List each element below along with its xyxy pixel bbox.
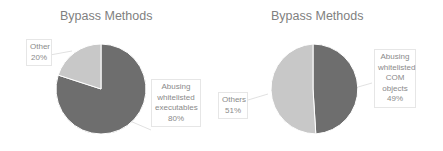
pie-chart-executables: Bypass Methods Other 20% Abusing whiteli… — [0, 0, 220, 151]
leader-line — [248, 94, 268, 100]
data-label-executables: Abusing whitelisted executables 80% — [151, 79, 201, 127]
label-line: 80% — [155, 114, 197, 125]
data-label-other: Other 20% — [26, 39, 52, 66]
label-line: whitelisted — [378, 63, 412, 74]
leader-line — [130, 121, 151, 130]
pie-chart-com-objects: Bypass Methods Others 51% Abusing whitel… — [220, 0, 443, 151]
label-line: whitelisted — [155, 93, 197, 104]
data-label-others: Others 51% — [218, 92, 248, 119]
label-line: executables — [155, 103, 197, 114]
label-line: 49% — [378, 94, 412, 105]
pie-graphic — [0, 0, 220, 151]
label-line: Others — [222, 95, 244, 106]
label-line: Abusing — [378, 52, 412, 63]
label-line: Abusing — [155, 82, 197, 93]
pie-slice-com-objects — [313, 44, 358, 134]
label-line: objects — [378, 84, 412, 95]
pie-slice-others — [271, 44, 316, 134]
label-line: COM — [378, 73, 412, 84]
label-line: Other — [30, 42, 48, 53]
label-line: 20% — [30, 53, 48, 64]
leader-line — [358, 83, 372, 87]
data-label-com-objects: Abusing whitelisted COM objects 49% — [374, 49, 416, 108]
label-line: 51% — [222, 106, 244, 117]
leader-line — [50, 51, 72, 55]
